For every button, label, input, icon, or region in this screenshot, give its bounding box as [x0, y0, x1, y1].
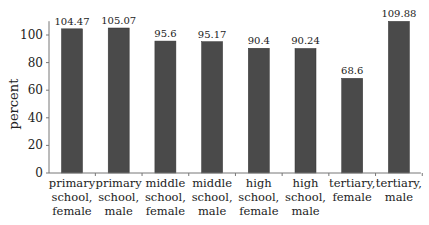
y-tick-label: 100 [20, 28, 43, 42]
bar [202, 42, 223, 173]
bar [342, 78, 363, 173]
category-label: middleschool,female [145, 176, 186, 218]
bar [108, 28, 129, 173]
category-label: primaryschool,male [96, 176, 143, 218]
category-label: primaryschool,female [49, 176, 96, 218]
y-tick-label: 20 [28, 138, 43, 152]
bars: 104.47105.0795.695.1790.490.2468.6109.88 [55, 8, 417, 173]
value-label: 104.47 [55, 16, 90, 27]
value-label: 68.6 [341, 65, 363, 76]
value-label: 105.07 [101, 15, 136, 26]
bar [155, 41, 176, 173]
category-label: tertiary,female [329, 176, 375, 204]
bar [388, 21, 409, 173]
bar-chart: 020406080100 104.47105.0795.695.1790.490… [0, 0, 429, 225]
value-label: 90.4 [248, 35, 270, 46]
category-label: highschool,male [285, 176, 326, 218]
bar [295, 48, 316, 173]
y-tick-label: 40 [28, 111, 43, 125]
y-tick-label: 80 [28, 56, 43, 70]
x-axis: primaryschool,femaleprimaryschool,malemi… [49, 173, 422, 218]
bar [62, 29, 83, 173]
category-label: middleschool,male [192, 176, 233, 218]
value-label: 95.17 [198, 29, 227, 40]
value-label: 109.88 [381, 8, 416, 19]
y-axis: 020406080100 [20, 21, 49, 180]
bar [248, 48, 269, 173]
value-label: 95.6 [154, 28, 176, 39]
category-label: highschool,female [238, 176, 279, 218]
category-label: tertiary,male [376, 176, 422, 204]
y-axis-label: percent [6, 78, 21, 130]
y-tick-label: 60 [28, 83, 43, 97]
y-tick-label: 0 [35, 166, 43, 180]
value-label: 90.24 [291, 35, 320, 46]
